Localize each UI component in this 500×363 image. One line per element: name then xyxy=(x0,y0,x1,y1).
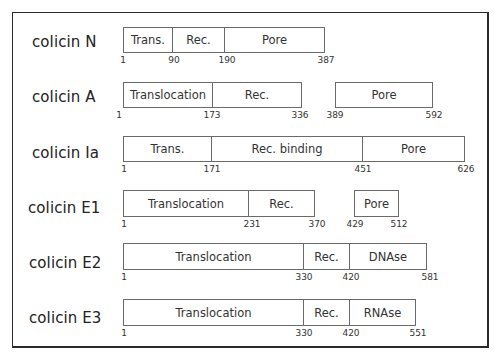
residue-position: 626 xyxy=(457,164,474,174)
domain-segment: Rec. xyxy=(212,82,302,108)
residue-position: 1 xyxy=(116,110,122,120)
domain-segment: DNAse xyxy=(349,243,427,270)
domain-label: Rec. xyxy=(314,250,339,264)
domain-segment: Rec. xyxy=(172,27,225,53)
residue-position: 336 xyxy=(291,110,308,120)
domain-label: Pore xyxy=(371,88,396,102)
residue-position: 581 xyxy=(421,272,438,282)
domain-segment: Translocation xyxy=(123,190,249,217)
domain-segment: Pore xyxy=(354,190,399,217)
residue-position: 1 xyxy=(121,328,127,338)
domain-segment: Translocation xyxy=(123,243,304,270)
domain-segment: Rec. xyxy=(303,243,350,270)
residue-position: 1 xyxy=(121,219,127,229)
residue-position: 592 xyxy=(425,110,442,120)
domain-label: Pore xyxy=(364,197,389,211)
domain-segment: Pore xyxy=(224,27,325,53)
domain-label: RNAse xyxy=(364,306,402,320)
residue-position: 387 xyxy=(317,55,334,65)
domain-label: Pore xyxy=(262,33,287,47)
domain-label: Translocation xyxy=(175,306,251,320)
domain-segment: Rec. xyxy=(303,299,350,326)
domain-label: Rec. xyxy=(186,33,211,47)
residue-position: 231 xyxy=(243,219,260,229)
residue-position: 90 xyxy=(168,55,179,65)
domain-label: Rec. xyxy=(245,88,270,102)
domain-label: Trans. xyxy=(150,142,184,156)
residue-position: 1 xyxy=(120,55,126,65)
domain-label: Translocation xyxy=(130,88,206,102)
residue-position: 330 xyxy=(295,272,312,282)
residue-position: 451 xyxy=(354,164,371,174)
domain-segment: Translocation xyxy=(123,82,213,108)
residue-position: 512 xyxy=(390,219,407,229)
domain-segment: Trans. xyxy=(123,136,212,162)
domain-segment: Rec. binding xyxy=(211,136,363,162)
row-label: colicin E2 xyxy=(29,254,101,272)
domain-label: DNAse xyxy=(369,250,407,264)
domain-segment: Rec. xyxy=(248,190,315,217)
domain-label: Translocation xyxy=(148,197,224,211)
row-label: colicin E1 xyxy=(28,199,100,217)
domain-segment: Translocation xyxy=(123,299,304,326)
residue-position: 370 xyxy=(308,219,325,229)
domain-segment: RNAse xyxy=(349,299,416,326)
domain-label: Rec. xyxy=(269,197,294,211)
domain-label: Pore xyxy=(401,142,426,156)
residue-position: 1 xyxy=(121,272,127,282)
domain-segment: Pore xyxy=(362,136,465,162)
domain-label: Translocation xyxy=(175,250,251,264)
residue-position: 171 xyxy=(203,164,220,174)
row-label: colicin N xyxy=(32,33,97,51)
domain-label: Rec. binding xyxy=(251,142,322,156)
residue-position: 190 xyxy=(218,55,235,65)
domain-segment: Trans. xyxy=(123,27,173,53)
row-label: colicin A xyxy=(32,88,96,106)
row-label: colicin E3 xyxy=(29,309,101,327)
domain-segment: Pore xyxy=(335,82,433,108)
residue-position: 330 xyxy=(295,328,312,338)
residue-position: 389 xyxy=(326,110,343,120)
residue-position: 551 xyxy=(409,328,426,338)
row-label: colicin Ia xyxy=(32,144,99,162)
figure-frame xyxy=(12,12,489,348)
residue-position: 420 xyxy=(342,328,359,338)
residue-position: 173 xyxy=(203,110,220,120)
domain-label: Rec. xyxy=(314,306,339,320)
residue-position: 1 xyxy=(121,164,127,174)
residue-position: 429 xyxy=(346,219,363,229)
residue-position: 420 xyxy=(342,272,359,282)
domain-label: Trans. xyxy=(131,33,165,47)
